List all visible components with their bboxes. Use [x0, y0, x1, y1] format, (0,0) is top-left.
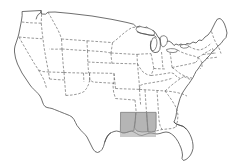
national-outline-group [15, 11, 228, 161]
lake-erie-outline [167, 49, 178, 53]
us-outline-map-figure: United States outline map with highlight… [0, 0, 236, 166]
us-map-canvas: United States outline map with highlight… [0, 0, 236, 166]
lake-ontario-outline [180, 44, 189, 48]
highlight-group [120, 112, 156, 137]
gulf-coast-highlight-rectangle [120, 112, 156, 137]
contiguous-us-landmass [15, 11, 228, 161]
